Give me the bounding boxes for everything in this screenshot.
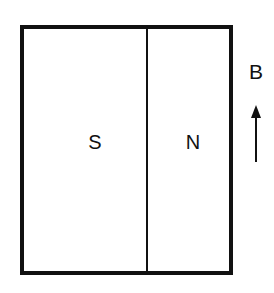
field-arrow-up-icon xyxy=(246,100,266,166)
north-pole-label: N xyxy=(186,131,200,154)
pole-divider xyxy=(146,27,148,272)
south-pole-label: S xyxy=(88,131,101,154)
bar-magnet xyxy=(20,25,233,275)
field-label: B xyxy=(249,60,263,84)
